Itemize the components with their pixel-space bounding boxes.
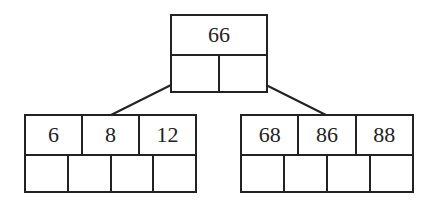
left-child-pointer-3 — [152, 156, 195, 191]
left-child-pointers — [26, 156, 195, 191]
right-child-pointers — [242, 156, 412, 191]
right-child-pointer-1 — [283, 156, 326, 191]
right-child-keys: 68 86 88 — [242, 116, 412, 156]
root-pointer-1 — [218, 56, 266, 91]
left-child-keys: 6 8 12 — [26, 116, 195, 156]
right-child-pointer-3 — [369, 156, 412, 191]
left-child-key-1: 8 — [81, 116, 138, 154]
left-child-key-2: 12 — [138, 116, 195, 154]
left-child-pointer-2 — [110, 156, 153, 191]
root-key-0: 66 — [172, 16, 266, 54]
right-child-key-1: 86 — [297, 116, 354, 154]
right-child-pointer-0 — [242, 156, 283, 191]
left-child-key-0: 6 — [26, 116, 81, 154]
root-pointer-0 — [172, 56, 218, 91]
root-node: 66 — [170, 14, 268, 93]
left-child-node: 6 8 12 — [24, 114, 197, 193]
left-child-pointer-1 — [67, 156, 110, 191]
b-tree-diagram: 66 6 8 12 68 86 88 — [0, 0, 437, 204]
root-keys: 66 — [172, 16, 266, 56]
left-child-pointer-0 — [26, 156, 67, 191]
right-child-pointer-2 — [326, 156, 369, 191]
root-pointers — [172, 56, 266, 91]
right-child-key-0: 68 — [242, 116, 297, 154]
right-child-node: 68 86 88 — [240, 114, 414, 193]
right-child-key-2: 88 — [355, 116, 412, 154]
